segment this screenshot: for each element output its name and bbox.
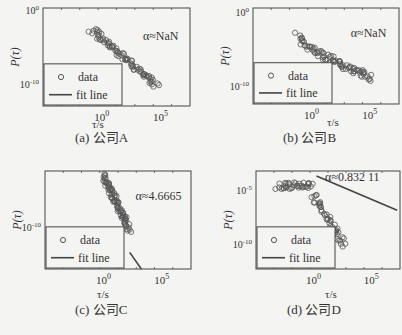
y-axis-label: P(τ): [221, 210, 235, 231]
chart-panel-d: datafit line10-510-10100105τ/sP(τ)α≈0.83…: [0, 0, 402, 335]
legend-label-data: data: [291, 233, 312, 247]
y-tick-label: 10-10: [233, 238, 253, 250]
panel-caption: (d) 公司D: [287, 302, 341, 317]
x-tick-label: 105: [364, 272, 379, 286]
x-tick-label: 100: [306, 272, 321, 286]
legend-label-fit: fit line: [289, 251, 321, 265]
y-tick-label: 10-5: [236, 184, 252, 196]
alpha-annotation: α≈0.832 11: [325, 170, 379, 184]
x-axis-label: τ/s: [325, 288, 337, 300]
